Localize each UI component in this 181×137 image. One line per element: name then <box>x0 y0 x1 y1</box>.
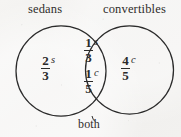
both-region-label: both <box>78 118 100 130</box>
intersection-sedans-fraction: 1 3 <box>84 36 93 64</box>
sedans-only-variable: s <box>51 55 55 66</box>
intersection-sedans-denominator: 3 <box>84 51 93 65</box>
intersection-convertibles-fraction: 1 5 <box>84 67 93 95</box>
intersection-convertibles-expression: 1 5 c <box>84 67 99 95</box>
intersection-sedans-variable: s <box>94 37 98 48</box>
convertibles-set-label: convertibles <box>103 3 166 16</box>
sedans-only-numerator: 2 <box>41 54 50 68</box>
convertibles-only-denominator: 5 <box>121 69 130 83</box>
venn-diagram: sedans convertibles both 2 3 s 4 5 c 1 3… <box>0 0 181 137</box>
intersection-sedans-numerator: 1 <box>84 36 93 50</box>
intersection-convertibles-denominator: 5 <box>84 82 93 96</box>
sedans-only-expression: 2 3 s <box>41 54 55 82</box>
sedans-set-label: sedans <box>28 3 62 16</box>
convertibles-only-expression: 4 5 c <box>121 54 136 82</box>
convertibles-only-variable: c <box>131 55 136 66</box>
convertibles-only-numerator: 4 <box>121 54 130 68</box>
intersection-convertibles-numerator: 1 <box>84 67 93 81</box>
intersection-sedans-expression: 1 3 s <box>84 36 98 64</box>
sedans-only-denominator: 3 <box>41 69 50 83</box>
sedans-only-fraction: 2 3 <box>41 54 50 82</box>
intersection-convertibles-variable: c <box>94 68 99 79</box>
convertibles-only-fraction: 4 5 <box>121 54 130 82</box>
